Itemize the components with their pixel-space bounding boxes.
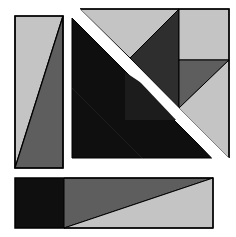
bottom-rectangle-piece xyxy=(15,178,213,228)
left-rectangle-piece xyxy=(15,16,63,168)
top-right-light-square xyxy=(179,9,229,60)
tangram-diagram xyxy=(0,0,236,237)
bottom-black-square xyxy=(15,178,64,228)
diagram-svg xyxy=(0,0,236,237)
